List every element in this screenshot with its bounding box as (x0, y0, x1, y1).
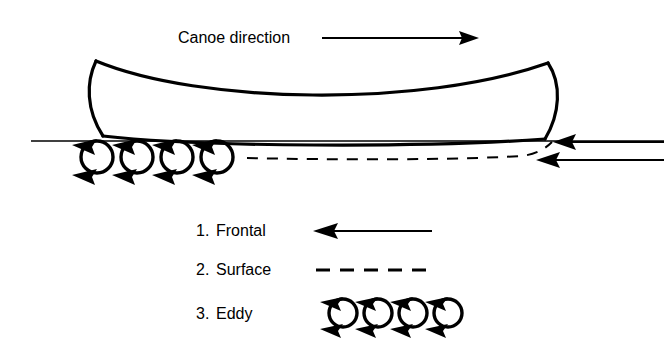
legend-eddy-1 (320, 297, 357, 338)
eddy-arrow-top (425, 297, 448, 311)
legend-eddy-4 (425, 297, 462, 338)
canoe-hull (89, 61, 557, 145)
legend-eddy-3 (390, 297, 427, 338)
canoe-direction-label: Canoe direction (178, 29, 290, 46)
canoe-direction-arrow (322, 31, 479, 45)
canoe-flow-diagram: Canoe direction (0, 0, 664, 350)
legend-number-3: 3. (196, 305, 209, 322)
eddy-2 (112, 139, 153, 185)
legend-item-surface: 2. Surface (196, 261, 432, 278)
eddy-group (72, 139, 233, 185)
eddy-arrow-bottom (152, 169, 177, 185)
eddy-arrow-bottom (320, 324, 343, 338)
legend-label-frontal: Frontal (216, 222, 266, 239)
eddy-4 (192, 139, 233, 185)
legend-number-1: 1. (196, 222, 209, 239)
legend: 1. Frontal 2. Surface 3. Eddy (196, 222, 462, 338)
legend-symbol-left-arrow (313, 223, 432, 239)
right-arrow-head (459, 31, 479, 45)
eddy-arrow-top (390, 297, 413, 311)
eddy-arrow-bottom (355, 324, 378, 338)
legend-label-surface: Surface (216, 261, 271, 278)
diagram-canvas: Canoe direction (0, 0, 664, 350)
legend-number-2: 2. (196, 261, 209, 278)
legend-item-eddy: 3. Eddy (196, 297, 462, 338)
frontal-arrow-lower (536, 152, 664, 168)
legend-item-frontal: 1. Frontal (196, 222, 432, 239)
eddy-1 (72, 139, 113, 185)
eddy-arrow-bottom (425, 324, 448, 338)
eddy-arrow-bottom (72, 169, 97, 185)
eddy-arrow-top (320, 297, 343, 311)
canoe-direction-group: Canoe direction (178, 29, 479, 46)
frontal-arrow-upper (553, 134, 664, 150)
eddy-3 (152, 139, 193, 185)
legend-symbol-eddy-circles (320, 297, 462, 338)
eddy-arrow-top (355, 297, 378, 311)
frontal-flow-arrows (536, 134, 664, 168)
eddy-arrow-bottom (192, 169, 217, 185)
eddy-arrow-bottom (390, 324, 413, 338)
eddy-arrow-bottom (112, 169, 137, 185)
legend-label-eddy: Eddy (216, 305, 252, 322)
legend-eddy-2 (355, 297, 392, 338)
